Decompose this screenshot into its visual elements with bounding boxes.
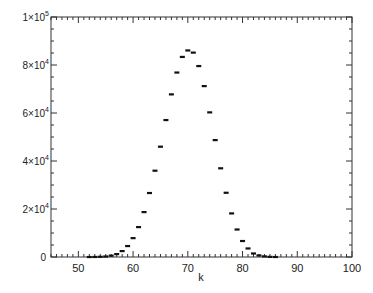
x-tick-label: 70 [182, 262, 194, 274]
y-tick-label: 4×104 [23, 154, 50, 167]
y-axis-ticks [51, 17, 352, 257]
data-point [174, 71, 179, 73]
data-point [180, 56, 185, 58]
data-markers [87, 49, 278, 258]
data-point [191, 52, 196, 54]
chart: 5060708090100 02×1044×1046×1048×1041×105… [0, 0, 373, 293]
data-point [224, 192, 229, 194]
data-point [251, 252, 256, 254]
data-point [273, 256, 278, 258]
data-point [103, 255, 108, 257]
y-tick-label: 2×104 [23, 202, 50, 215]
x-tick-label: 80 [236, 262, 248, 274]
data-point [213, 139, 218, 141]
x-axis-ticks [51, 17, 352, 257]
data-point [218, 167, 223, 169]
data-point [114, 253, 119, 255]
x-tick-label: 60 [127, 262, 139, 274]
data-point [136, 226, 141, 228]
x-tick-label: 90 [291, 262, 303, 274]
data-point [120, 250, 125, 252]
data-point [109, 255, 114, 257]
data-point [240, 240, 245, 242]
data-point [87, 256, 92, 258]
x-axis-label: k [198, 271, 204, 283]
data-point [185, 49, 190, 51]
data-point [152, 170, 157, 172]
data-point [163, 119, 168, 121]
x-tick-label: 50 [72, 262, 84, 274]
y-tick-label: 1×105 [23, 10, 50, 23]
y-tick-label: 6×104 [23, 106, 50, 119]
x-tick-label: 100 [343, 262, 361, 274]
y-tick-label: 8×104 [23, 58, 50, 71]
data-point [267, 256, 272, 258]
data-point [202, 85, 207, 87]
data-point [92, 256, 97, 258]
plot-frame [51, 17, 352, 257]
data-point [125, 245, 130, 247]
x-axis-tick-labels: 5060708090100 [72, 262, 361, 274]
data-point [229, 212, 234, 214]
data-point [246, 247, 251, 249]
data-point [142, 211, 147, 213]
y-axis-tick-labels: 02×1044×1046×1048×1041×105 [23, 10, 50, 263]
data-point [262, 255, 267, 257]
data-point [158, 146, 163, 148]
data-point [147, 192, 152, 194]
data-point [196, 65, 201, 67]
data-point [98, 256, 103, 258]
data-point [169, 93, 174, 95]
data-point [256, 254, 261, 256]
data-point [235, 228, 240, 230]
y-tick-label: 0 [40, 252, 46, 263]
data-point [131, 237, 136, 239]
data-point [207, 111, 212, 113]
